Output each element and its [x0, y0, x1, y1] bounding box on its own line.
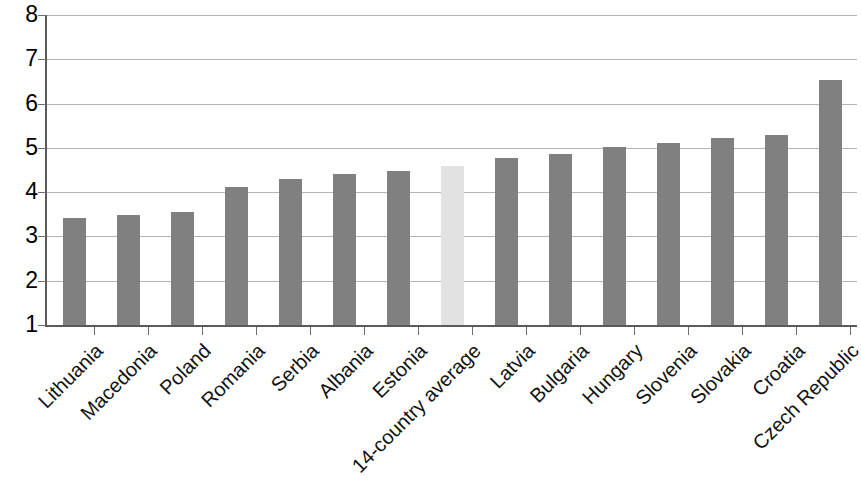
bar	[603, 147, 626, 325]
y-axis-tick-label: 2	[0, 269, 38, 292]
x-axis-line	[45, 325, 857, 327]
x-axis-tick	[742, 327, 743, 335]
x-axis-tick	[364, 327, 365, 335]
y-axis-tick	[38, 192, 46, 193]
bar	[225, 187, 248, 325]
y-axis-tick	[38, 15, 46, 16]
bar	[495, 158, 518, 325]
gridline	[47, 15, 857, 16]
plot-area	[47, 15, 857, 325]
y-axis-tick	[38, 148, 46, 149]
x-axis-tick	[94, 327, 95, 335]
x-axis-tick	[688, 327, 689, 335]
bar	[387, 171, 410, 325]
bar	[117, 215, 140, 325]
y-axis-tick-label: 7	[0, 47, 38, 70]
y-axis: 12345678	[0, 0, 38, 489]
bar	[765, 135, 788, 325]
y-axis-tick	[38, 104, 46, 105]
x-axis-category-label: Albania	[315, 340, 376, 401]
x-axis-tick	[256, 327, 257, 335]
x-axis-tick	[634, 327, 635, 335]
x-axis-tick	[526, 327, 527, 335]
bar	[333, 174, 356, 325]
bar	[63, 218, 86, 325]
bar	[171, 212, 194, 325]
x-axis-tick	[202, 327, 203, 335]
bar	[819, 80, 842, 325]
bar	[279, 179, 302, 325]
y-axis-tick	[38, 236, 46, 237]
x-axis-tick	[472, 327, 473, 335]
bar	[711, 138, 734, 325]
gridline	[47, 59, 857, 60]
y-axis-tick	[38, 59, 46, 60]
gridline	[47, 148, 857, 149]
y-axis-tick-label: 3	[0, 224, 38, 247]
y-axis-tick-label: 6	[0, 92, 38, 115]
x-axis-tick	[148, 327, 149, 335]
y-axis-tick-label: 4	[0, 180, 38, 203]
bar	[441, 166, 464, 325]
x-axis-tick	[796, 327, 797, 335]
x-axis-category-label: Latvia	[486, 340, 538, 392]
x-axis-tick	[418, 327, 419, 335]
bar	[549, 154, 572, 325]
bar	[657, 143, 680, 325]
y-axis-tick	[38, 325, 46, 326]
x-axis-tick	[580, 327, 581, 335]
y-axis-tick-label: 8	[0, 3, 38, 26]
y-axis-tick-label: 1	[0, 313, 38, 336]
gridline	[47, 104, 857, 105]
y-axis-tick-label: 5	[0, 136, 38, 159]
x-axis-tick	[850, 327, 851, 335]
y-axis-tick	[38, 281, 46, 282]
x-axis-tick	[310, 327, 311, 335]
bar-chart: 12345678 LithuaniaMacedoniaPolandRomania…	[0, 0, 861, 489]
